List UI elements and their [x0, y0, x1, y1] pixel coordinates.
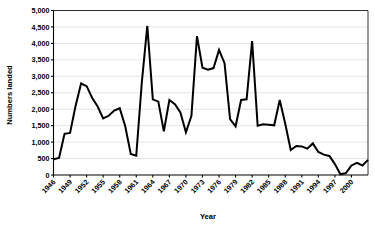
x-axis-tick-label: 2000 — [338, 178, 356, 196]
x-axis-tick-label: 1997 — [321, 178, 339, 196]
y-axis-tick-label: 0 — [46, 171, 50, 180]
y-axis-tick-label: 5,000 — [32, 6, 50, 15]
x-axis-tick-label: 1982 — [238, 178, 256, 196]
y-axis-tick-label: 4,000 — [32, 39, 50, 48]
x-axis-tick-labels: 1946194919521955195819611964196719701973… — [40, 175, 356, 195]
x-axis-tick-label: 1979 — [222, 178, 240, 196]
x-axis-tick-label: 1958 — [106, 178, 124, 196]
y-axis-tick-label: 3,000 — [32, 72, 50, 81]
x-axis-tick-label: 1952 — [73, 178, 91, 196]
y-axis-tick-label: 2,000 — [32, 105, 50, 114]
x-axis-tick-label: 1967 — [156, 178, 174, 196]
y-axis-tick-label: 1,000 — [32, 138, 50, 147]
x-axis-tick-label: 1955 — [89, 178, 107, 196]
x-axis-tick-label: 1973 — [189, 178, 207, 196]
gridlines — [54, 11, 369, 159]
x-axis-tick-label: 1994 — [305, 178, 323, 196]
line-chart: 05001,0001,5002,0002,5003,0003,5004,0004… — [0, 0, 375, 226]
y-axis-title: Numbers landed — [5, 65, 14, 125]
x-axis-tick-label: 1970 — [172, 178, 190, 196]
x-axis-tick-label: 1964 — [139, 178, 157, 196]
y-axis-tick-label: 3,500 — [32, 55, 50, 64]
y-axis-tick-label: 500 — [38, 154, 50, 163]
y-axis-tick-label: 1,500 — [32, 121, 50, 130]
data-series-line — [54, 26, 369, 174]
y-axis-tick-labels: 05001,0001,5002,0002,5003,0003,5004,0004… — [32, 6, 54, 180]
series-line-numbers-landed — [54, 26, 369, 174]
x-axis-tick-label: 1949 — [56, 178, 74, 196]
y-axis-tick-label: 2,500 — [32, 88, 50, 97]
x-axis-title: Year — [200, 212, 216, 221]
x-axis-tick-label: 1988 — [271, 178, 289, 196]
x-axis-tick-label: 1991 — [288, 178, 306, 196]
x-axis-tick-label: 1976 — [205, 178, 223, 196]
x-axis-tick-label: 1985 — [255, 178, 273, 196]
chart-container: 05001,0001,5002,0002,5003,0003,5004,0004… — [0, 0, 375, 226]
y-axis-tick-label: 4,500 — [32, 23, 50, 32]
x-axis-tick-label: 1961 — [122, 178, 140, 196]
x-axis-tick-label: 1946 — [40, 178, 58, 196]
